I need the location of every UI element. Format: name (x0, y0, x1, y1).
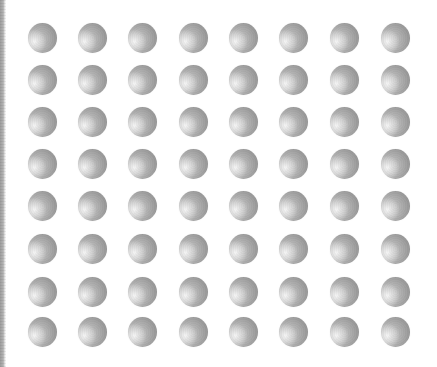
sphere (279, 277, 308, 307)
sphere (381, 234, 410, 264)
sphere (78, 23, 107, 53)
sphere (128, 65, 157, 95)
sphere (381, 317, 410, 347)
sphere (78, 277, 107, 307)
sphere (330, 107, 359, 137)
sphere (330, 65, 359, 95)
sphere (381, 23, 410, 53)
sphere (381, 149, 410, 179)
sphere (229, 149, 258, 179)
sphere (229, 65, 258, 95)
sphere (279, 191, 308, 221)
sphere (179, 107, 208, 137)
sphere (330, 234, 359, 264)
sphere (330, 23, 359, 53)
sphere (128, 149, 157, 179)
sphere (128, 317, 157, 347)
sphere (128, 23, 157, 53)
sphere (229, 234, 258, 264)
sphere (78, 317, 107, 347)
sphere (78, 191, 107, 221)
sphere (28, 317, 57, 347)
sphere (229, 107, 258, 137)
sphere (229, 23, 258, 53)
left-edge-strip (0, 0, 6, 367)
sphere (381, 65, 410, 95)
sphere (381, 191, 410, 221)
sphere (28, 277, 57, 307)
sphere (279, 234, 308, 264)
sphere (330, 149, 359, 179)
sphere (28, 191, 57, 221)
sphere (229, 317, 258, 347)
sphere (179, 65, 208, 95)
sphere (381, 107, 410, 137)
sphere (128, 107, 157, 137)
sphere (28, 234, 57, 264)
sphere (330, 191, 359, 221)
sphere (179, 23, 208, 53)
sphere (179, 234, 208, 264)
sphere (330, 317, 359, 347)
sphere (179, 277, 208, 307)
sphere (330, 277, 359, 307)
sphere (78, 107, 107, 137)
sphere (279, 23, 308, 53)
sphere (381, 277, 410, 307)
sphere (78, 234, 107, 264)
sphere (279, 317, 308, 347)
sphere (78, 149, 107, 179)
sphere (78, 65, 107, 95)
sphere (229, 191, 258, 221)
sphere (279, 149, 308, 179)
sphere (28, 65, 57, 95)
sphere (179, 149, 208, 179)
sphere (279, 65, 308, 95)
sphere (128, 234, 157, 264)
sphere (128, 191, 157, 221)
sphere-grid-image (0, 0, 437, 367)
sphere (28, 107, 57, 137)
sphere (28, 149, 57, 179)
sphere (179, 191, 208, 221)
sphere (128, 277, 157, 307)
sphere (279, 107, 308, 137)
sphere (179, 317, 208, 347)
sphere (28, 23, 57, 53)
sphere (229, 277, 258, 307)
